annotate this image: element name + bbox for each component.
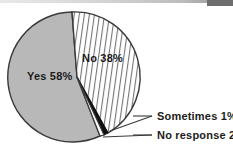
slice-label-no-response: No response 2% xyxy=(157,129,233,141)
pie-chart: Yes 58% No 38% Sometimes 1% No response … xyxy=(0,0,233,153)
slice-label-sometimes: Sometimes 1% xyxy=(157,110,233,122)
slice-label-yes: Yes 58% xyxy=(27,70,72,82)
slice-label-no: No 38% xyxy=(82,52,123,64)
pie-chart-screenshot: Yes 58% No 38% Sometimes 1% No response … xyxy=(0,0,233,153)
